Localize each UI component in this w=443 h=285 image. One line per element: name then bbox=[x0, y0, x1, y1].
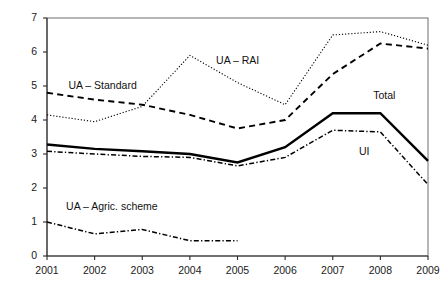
x-axis-tick-label: 2008 bbox=[360, 264, 400, 276]
y-axis-tick-label: 7 bbox=[21, 11, 37, 23]
x-axis-tick-label: 2007 bbox=[313, 264, 353, 276]
series-label-total: Total bbox=[373, 89, 395, 101]
series-label-ua-standard: UA – Standard bbox=[68, 79, 136, 91]
series-label-ua-agric-scheme: UA – Agric. scheme bbox=[66, 200, 158, 212]
chart-canvas bbox=[0, 0, 443, 285]
y-axis-tick-label: 3 bbox=[21, 147, 37, 159]
x-axis-tick-label: 2002 bbox=[75, 264, 115, 276]
y-axis-tick-label: 1 bbox=[21, 215, 37, 227]
x-axis-tick-label: 2005 bbox=[218, 264, 258, 276]
series-line-ua-agric-scheme bbox=[47, 222, 238, 241]
y-axis-tick-label: 4 bbox=[21, 113, 37, 125]
y-axis-tick-label: 0 bbox=[21, 249, 37, 261]
x-axis-tick-label: 2001 bbox=[27, 264, 67, 276]
series-line-ua-rai bbox=[47, 32, 428, 122]
x-axis-tick-label: 2004 bbox=[170, 264, 210, 276]
line-chart: 76543210 2001200220032004200520062007200… bbox=[0, 0, 443, 285]
y-axis-tick-label: 6 bbox=[21, 45, 37, 57]
y-axis-tick-label: 2 bbox=[21, 181, 37, 193]
series-line-ui bbox=[47, 130, 428, 184]
y-axis-tick-label: 5 bbox=[21, 79, 37, 91]
x-axis-tick-label: 2006 bbox=[265, 264, 305, 276]
x-axis-tick-label: 2009 bbox=[408, 264, 443, 276]
series-label-ua-rai: UA – RAI bbox=[216, 54, 259, 66]
series-label-ui: UI bbox=[359, 145, 370, 157]
x-axis-tick-label: 2003 bbox=[122, 264, 162, 276]
